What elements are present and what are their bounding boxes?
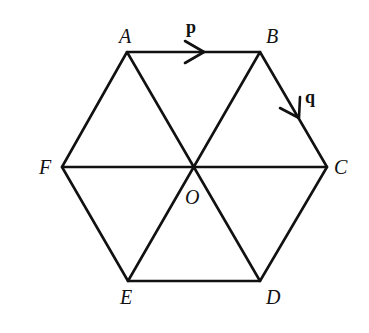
vector-label-p: p [186,17,196,37]
vertex-label-E: E [119,286,132,308]
vector-label-q: q [305,87,315,107]
vertex-label-F: F [38,156,52,178]
vertex-label-A: A [117,25,132,47]
vertex-label-B: B [266,25,278,47]
center-label-O: O [185,186,199,208]
hexagon-diagram: A B C D E F O p q [0,0,369,333]
vertex-label-D: D [265,286,281,308]
vertex-label-C: C [334,156,348,178]
